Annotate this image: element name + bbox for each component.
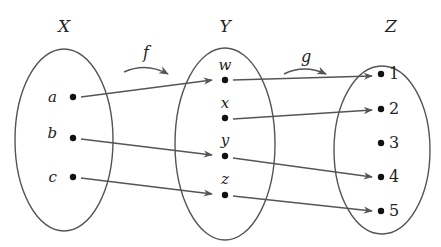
element-2: 2 — [378, 99, 399, 118]
element-label: 4 — [389, 167, 399, 186]
mapping-arrow-z-to-5 — [233, 196, 372, 211]
point-dot — [378, 174, 384, 180]
set-z: Z12345 — [334, 16, 430, 234]
point-dot — [70, 94, 76, 100]
function-label: g — [301, 47, 311, 66]
point-dot — [222, 153, 228, 159]
element-label: z — [220, 170, 229, 188]
function-label: f — [142, 43, 152, 62]
element-4: 4 — [378, 167, 399, 186]
point-dot — [70, 174, 76, 180]
mapping-arrow-c-to-z — [81, 178, 212, 194]
point-dot — [222, 115, 228, 121]
set-label: Z — [384, 16, 398, 36]
set-label: X — [56, 16, 71, 36]
element-label: 3 — [389, 133, 399, 152]
point-dot — [222, 192, 228, 198]
mapping-arrow-x-to-2 — [233, 110, 372, 119]
function-f: f — [124, 43, 168, 74]
function-g: g — [284, 47, 326, 74]
mapping-arrow-w-to-1 — [233, 76, 372, 80]
point-dot — [222, 77, 228, 83]
set-x: Xabc — [15, 16, 113, 231]
point-dot — [378, 71, 384, 77]
element-label: y — [220, 131, 230, 149]
element-a: a — [48, 88, 76, 106]
element-label: c — [49, 168, 58, 186]
element-label: x — [221, 94, 230, 112]
element-label: 1 — [389, 64, 399, 83]
point-dot — [70, 135, 76, 141]
element-w: w — [219, 56, 232, 83]
element-5: 5 — [378, 201, 399, 220]
element-y: y — [220, 131, 230, 159]
element-label: w — [219, 56, 232, 74]
mapping-arrow-b-to-y — [81, 139, 212, 155]
mapping-arrow-a-to-w — [81, 80, 212, 97]
element-x: x — [221, 94, 230, 121]
element-label: 2 — [389, 99, 399, 118]
point-dot — [378, 106, 384, 112]
mapping-arrow-y-to-4 — [233, 158, 372, 177]
element-z: z — [220, 170, 229, 198]
element-1: 1 — [378, 64, 399, 83]
curved-arrow-icon — [124, 67, 168, 74]
point-dot — [378, 208, 384, 214]
element-label: 5 — [389, 201, 399, 220]
function-mapping-diagram: XabcYwxyzZ12345 fg — [0, 0, 441, 247]
element-b: b — [47, 124, 76, 142]
set-ellipse — [15, 49, 113, 231]
set-y: Ywxyz — [175, 16, 275, 240]
element-3: 3 — [378, 133, 399, 152]
element-label: b — [47, 124, 57, 142]
point-dot — [378, 140, 384, 146]
curved-arrow-icon — [284, 69, 326, 74]
element-label: a — [48, 88, 57, 106]
element-c: c — [49, 168, 77, 186]
set-label: Y — [219, 16, 232, 36]
